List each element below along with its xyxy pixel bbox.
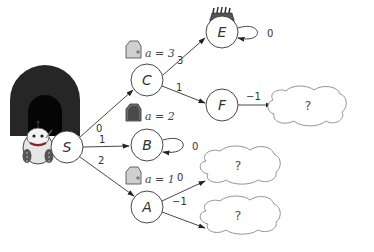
svg-text:?: ? (305, 98, 312, 113)
svg-text:0: 0 (267, 28, 273, 39)
svg-text:2: 2 (98, 155, 104, 166)
svg-text:C: C (142, 72, 152, 88)
svg-text:A: A (141, 199, 152, 215)
edge-B-loop (163, 138, 183, 152)
svg-text:F: F (218, 97, 227, 113)
door-icon (126, 104, 141, 121)
door-icon (126, 41, 141, 58)
svg-text:B: B (142, 137, 152, 153)
state-graph-diagram: 0 1 2 3 1 0 0 −1 0 −1 ? ? ? a = 3 a = 2 … (0, 0, 374, 252)
svg-text:a = 2: a = 2 (145, 110, 175, 123)
svg-text:E: E (218, 24, 227, 40)
svg-text:?: ? (235, 208, 242, 223)
svg-text:?: ? (235, 158, 242, 173)
tunnel-icon (10, 65, 80, 136)
edge-S-C (80, 90, 133, 137)
svg-text:0: 0 (96, 123, 102, 134)
svg-text:−1: −1 (172, 196, 187, 207)
svg-text:a = 3: a = 3 (145, 47, 175, 60)
svg-text:0: 0 (177, 172, 183, 183)
svg-text:S: S (63, 139, 72, 155)
edge-E-loop (238, 26, 258, 39)
edge-A-cloud3 (162, 212, 205, 228)
door-icon (126, 167, 141, 184)
svg-text:1: 1 (176, 82, 182, 93)
svg-text:a = 1: a = 1 (145, 173, 175, 186)
svg-text:3: 3 (177, 55, 183, 66)
svg-text:−1: −1 (246, 91, 261, 102)
svg-text:0: 0 (192, 141, 198, 152)
svg-text:1: 1 (99, 134, 105, 145)
edge-C-F (162, 86, 205, 103)
edge-S-B (83, 146, 129, 147)
